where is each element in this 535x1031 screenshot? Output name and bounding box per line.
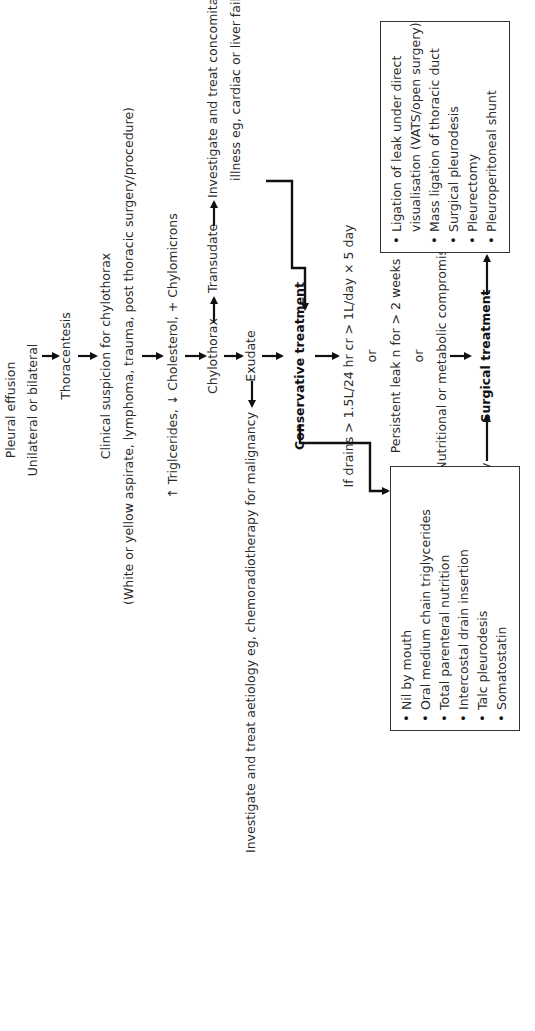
surgical-option: Pleuroperitoneal shunt [482,30,501,244]
chylothorax-management-flowchart: Pleural effusion Unilateral or bilateral… [0,0,535,1031]
node-surgical-treatment: Surgical treatment [480,289,493,422]
node-criteria-nutritional: Nutritional or metabolic compromise [436,241,449,470]
node-transudate: Transudate [207,224,220,293]
conservative-option: Oral medium chain triglycerides [416,475,435,722]
surgical-option-continuation-text: visualisation (VATS/open surgery) [408,22,423,232]
node-thoracentesis: Thoracentesis [60,312,73,400]
node-or-2: or [413,350,426,363]
conservative-options-box: Nil by mouth Oral medium chain triglycer… [390,466,520,731]
node-malignancy: Investigate and treat aetiology eg, chem… [245,412,258,853]
conservative-option: Total parenteral nutrition [435,475,454,722]
node-chylothorax: Chylothorax [207,318,220,394]
node-criteria-drain-volume: If drains > 1.5L/24 hr cr > 1L/day × 5 d… [343,225,356,488]
node-criteria-persistent-leak: Persistent leak n for > 2 weeks [390,259,403,454]
surgical-option: Surgical pleurodesis [444,30,463,244]
node-lab-findings: ↑ Triglcerides, ↓ Cholesterol, + Chylomi… [167,213,180,499]
surgical-option: Mass ligation of thoracic duct [425,30,444,244]
node-concomitant-line2: illness eg, cardiac or liver failure [230,0,243,181]
surgical-option: Ligation of leak under direct [387,30,406,244]
node-or-1: or [366,350,379,363]
conservative-option: Intercostal drain insertion [454,475,473,722]
surgical-option: Pleurectomy [463,30,482,244]
surgical-options-box: Ligation of leak under direct visualisat… [380,21,510,253]
conservative-option: Nil by mouth [397,475,416,722]
node-unilateral-or-bilateral: Unilateral or bilateral [27,344,40,477]
node-conservative-treatment: Conservative treatment [294,282,307,450]
node-clinical-detail: (White or yellow aspirate, lymphoma, tra… [123,107,136,605]
conservative-option: Somatostatin [492,475,511,722]
node-clinical-suspicion: Clinical suspicion for chylothorax [100,253,113,459]
node-pleural-effusion: Pleural effusion [5,362,18,459]
node-exudate: Exudate [245,330,258,381]
surgical-option-continuation: visualisation (VATS/open surgery) [406,30,425,244]
node-concomitant-line1: Investigate and treat concomitant [207,0,220,198]
conservative-option: Talc pleurodesis [473,475,492,722]
